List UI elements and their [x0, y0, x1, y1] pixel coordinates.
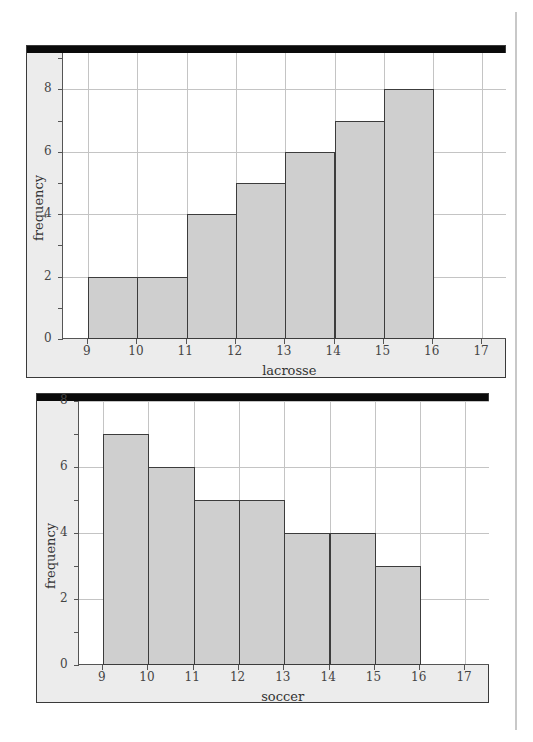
- x-tick-label: 17: [473, 344, 488, 358]
- histogram-bar: [330, 533, 376, 665]
- y-tick-minor: [58, 245, 63, 246]
- chart-top-bar: [27, 46, 505, 53]
- y-tick-major: [74, 467, 79, 468]
- x-tick-label: 14: [321, 670, 336, 684]
- y-tick-major: [58, 277, 63, 278]
- x-tick-label: 10: [139, 670, 154, 684]
- gridline-horizontal: [79, 401, 489, 402]
- y-axis-label: frequency: [43, 523, 58, 589]
- histogram-bar: [236, 183, 286, 339]
- x-tick-label: 12: [227, 344, 242, 358]
- x-tick-label: 11: [178, 344, 193, 358]
- x-tick-label: 11: [185, 670, 200, 684]
- histogram-bar: [187, 214, 237, 339]
- y-tick-minor: [74, 566, 79, 567]
- x-tick-label: 10: [128, 344, 143, 358]
- y-tick-major: [74, 665, 79, 666]
- plot-area: [62, 53, 506, 339]
- gridline-vertical: [482, 53, 483, 338]
- x-tick-label: 9: [98, 670, 106, 684]
- x-tick-label: 15: [366, 670, 381, 684]
- y-tick-label: 6: [60, 459, 68, 473]
- y-tick-minor: [58, 183, 63, 184]
- histogram-bar: [384, 89, 434, 339]
- soccer-histogram: frequency soccer 0246891011121314151617: [36, 393, 489, 703]
- page-border-line: [515, 12, 517, 730]
- x-tick-label: 12: [230, 670, 245, 684]
- x-tick-label: 9: [83, 344, 91, 358]
- histogram-bar: [88, 277, 138, 339]
- x-tick-label: 13: [276, 344, 291, 358]
- x-axis-label: soccer: [261, 689, 304, 704]
- x-tick-label: 14: [326, 344, 341, 358]
- y-tick-label: 0: [44, 331, 52, 345]
- y-tick-minor: [74, 500, 79, 501]
- lacrosse-histogram: frequency lacrosse 024689101112131415161…: [26, 45, 506, 378]
- y-tick-label: 4: [60, 525, 68, 539]
- y-tick-label: 2: [60, 591, 68, 605]
- y-tick-major: [74, 599, 79, 600]
- y-tick-minor: [58, 121, 63, 122]
- plot-area: [78, 401, 489, 665]
- histogram-bar: [239, 500, 285, 665]
- x-axis-label: lacrosse: [262, 363, 316, 378]
- y-tick-label: 0: [60, 657, 68, 671]
- x-tick-label: 15: [375, 344, 390, 358]
- histogram-bar: [335, 121, 385, 339]
- histogram-bar: [285, 152, 335, 339]
- y-tick-label: 6: [44, 144, 52, 158]
- histogram-bar: [194, 500, 240, 665]
- y-tick-label: 8: [60, 393, 68, 407]
- y-tick-major: [58, 339, 63, 340]
- y-tick-minor: [58, 58, 63, 59]
- x-tick-label: 13: [275, 670, 290, 684]
- chart-top-bar: [37, 394, 488, 401]
- y-tick-major: [58, 89, 63, 90]
- y-tick-major: [74, 401, 79, 402]
- y-tick-label: 8: [44, 81, 52, 95]
- histogram-bar: [375, 566, 421, 665]
- x-tick-label: 16: [411, 670, 426, 684]
- y-tick-major: [58, 214, 63, 215]
- histogram-bar: [148, 467, 194, 665]
- y-tick-major: [74, 533, 79, 534]
- y-tick-label: 4: [44, 206, 52, 220]
- gridline-horizontal: [63, 89, 506, 90]
- histogram-bar: [284, 533, 330, 665]
- y-tick-minor: [58, 308, 63, 309]
- y-tick-major: [58, 152, 63, 153]
- y-tick-label: 2: [44, 269, 52, 283]
- y-tick-minor: [74, 434, 79, 435]
- histogram-bar: [137, 277, 187, 339]
- histogram-bar: [103, 434, 149, 665]
- x-tick-label: 16: [424, 344, 439, 358]
- x-tick-label: 17: [456, 670, 471, 684]
- y-tick-minor: [74, 632, 79, 633]
